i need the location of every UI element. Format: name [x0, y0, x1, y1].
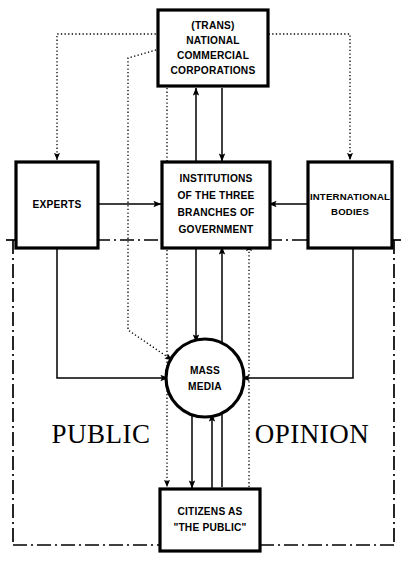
node-international[interactable]: INTERNATIONAL BODIES — [308, 162, 392, 248]
node-institutions-line-2: BRANCHES OF — [178, 207, 255, 218]
edge-experts-to-mass-media — [57, 248, 168, 378]
node-corporations[interactable]: (TRANS) NATIONAL COMMERCIAL CORPORATIONS — [158, 10, 268, 86]
node-mass-media-line-0: MASS — [190, 365, 220, 376]
node-corporations-line-0: (TRANS) — [191, 20, 234, 31]
node-institutions-line-0: INSTITUTIONS — [179, 173, 252, 184]
node-corporations-line-3: CORPORATIONS — [171, 65, 256, 76]
node-citizens[interactable]: CITIZENS AS "THE PUBLIC" — [160, 489, 260, 551]
node-corporations-line-2: COMMERCIAL — [177, 50, 249, 61]
node-citizens-line-0: CITIZENS AS — [177, 506, 242, 517]
region-label-opinion: OPINION — [255, 419, 370, 449]
diagram-canvas: (TRANS) NATIONAL COMMERCIAL CORPORATIONS… — [0, 0, 407, 562]
node-experts-line-0: EXPERTS — [33, 199, 82, 210]
diagram-root: (TRANS) NATIONAL COMMERCIAL CORPORATIONS… — [0, 0, 407, 562]
node-mass-media-line-1: MEDIA — [188, 381, 222, 392]
node-institutions[interactable]: INSTITUTIONS OF THE THREE BRANCHES OF GO… — [162, 162, 270, 248]
node-international-line-1: BODIES — [331, 206, 369, 217]
region-label-public: PUBLIC — [51, 419, 150, 449]
node-experts[interactable]: EXPERTS — [16, 162, 98, 248]
edge-corporations-to-experts — [57, 34, 163, 160]
node-citizens-line-1: "THE PUBLIC" — [173, 522, 246, 533]
node-mass-media[interactable]: MASS MEDIA — [166, 339, 244, 417]
node-institutions-line-1: OF THE THREE — [177, 190, 254, 201]
edge-international-to-mass-media — [242, 248, 353, 378]
node-corporations-line-1: NATIONAL — [186, 35, 239, 46]
edge-corporations-to-international — [265, 34, 350, 160]
node-institutions-line-3: GOVERNMENT — [178, 224, 254, 235]
node-international-line-0: INTERNATIONAL — [310, 191, 390, 202]
